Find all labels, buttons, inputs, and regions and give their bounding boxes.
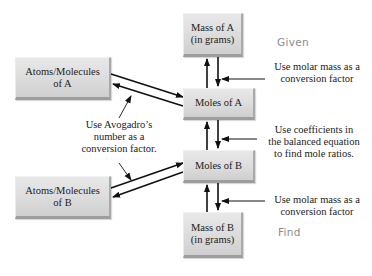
box-moles-of-b: Moles of B [183,150,255,183]
box-atoms-of-b-line2: of B [53,197,71,209]
box-moles-of-a: Moles of A [183,88,255,120]
annotation-molar-mass-bottom: Use molar mass as a conversion factor [266,194,368,218]
status-find: Find [278,226,301,238]
annotation-molar-mass-top: Use molar mass as a conversion factor [266,61,368,85]
box-mass-of-a-line2: (in grams) [191,34,234,46]
arrow-atoms-a-to-moles-a [111,74,183,97]
annotation-avogadro-line1: Use Avogadro’s [76,119,162,131]
annotation-coefficients-line1: Use coefficients in [258,124,370,136]
stoichiometry-flow-diagram: Mass of A (in grams) Given Use molar mas… [0,0,372,276]
annotation-molar-mass-bottom-line1: Use molar mass as a [266,194,368,206]
box-atoms-of-a-line2: of A [53,78,71,90]
box-mass-of-b: Mass of B (in grams) [183,212,243,258]
annotation-coefficients-line2: the balanced equation [258,136,370,148]
box-atoms-molecules-of-b: Atoms/Molecules of B [15,176,111,219]
annotation-molar-mass-top-line1: Use molar mass as a [266,61,368,73]
annotation-avogadro-line2: number as a [76,131,162,143]
box-mass-of-b-line1: Mass of B [191,222,234,234]
annotation-molar-mass-top-line2: conversion factor [266,73,368,85]
annotation-molar-mass-bottom-line2: conversion factor [266,206,368,218]
box-mass-of-b-line2: (in grams) [191,234,234,246]
box-atoms-of-a-line1: Atoms/Molecules [25,66,100,78]
arrow-moles-b-to-atoms-b [113,172,183,197]
annotation-coefficients-line3: to find mole ratios. [258,148,370,160]
annotation-avogadro: Use Avogadro’s number as a conversion fa… [76,119,162,155]
annotation-coefficients: Use coefficients in the balanced equatio… [258,124,370,160]
arrow-moles-a-to-atoms-a [113,84,183,106]
annotation-avogadro-line3: conversion factor. [76,143,162,155]
pointer-avogadro-down [119,163,131,180]
status-given: Given [277,36,309,48]
box-atoms-of-b-line1: Atoms/Molecules [25,185,100,197]
box-atoms-molecules-of-a: Atoms/Molecules of A [15,57,111,100]
box-moles-of-a-label: Moles of A [195,97,242,109]
box-moles-of-b-label: Moles of B [195,160,242,172]
pointer-avogadro-up [119,96,131,118]
arrow-atoms-b-to-moles-b [111,163,183,188]
box-mass-of-a-line1: Mass of A [191,22,234,34]
box-mass-of-a: Mass of A (in grams) [183,13,243,57]
